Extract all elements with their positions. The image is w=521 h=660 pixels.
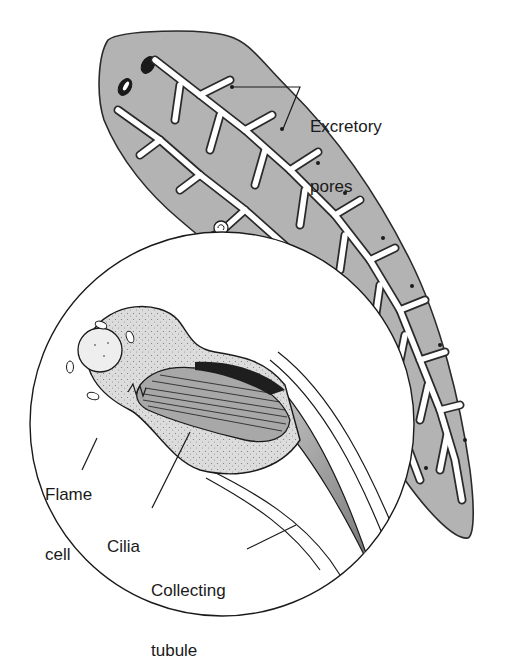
label-excretory-pores: Excretory pores [310,77,382,217]
label-collecting-tubule-line1: Collecting [151,581,226,601]
label-collecting-tubule-line2: tubule [151,641,226,660]
label-collecting-tubule: Collecting tubule [151,541,226,660]
label-flame-cell-line1: Flame [45,485,92,505]
label-flame-cell: Flame cell [45,445,92,585]
label-flame-cell-line2: cell [45,545,92,565]
nucleus [78,328,122,372]
label-cilia-line1: Cilia [107,537,140,557]
label-excretory-pores-line1: Excretory [310,117,382,137]
label-excretory-pores-line2: pores [310,177,382,197]
label-cilia: Cilia [107,497,140,577]
